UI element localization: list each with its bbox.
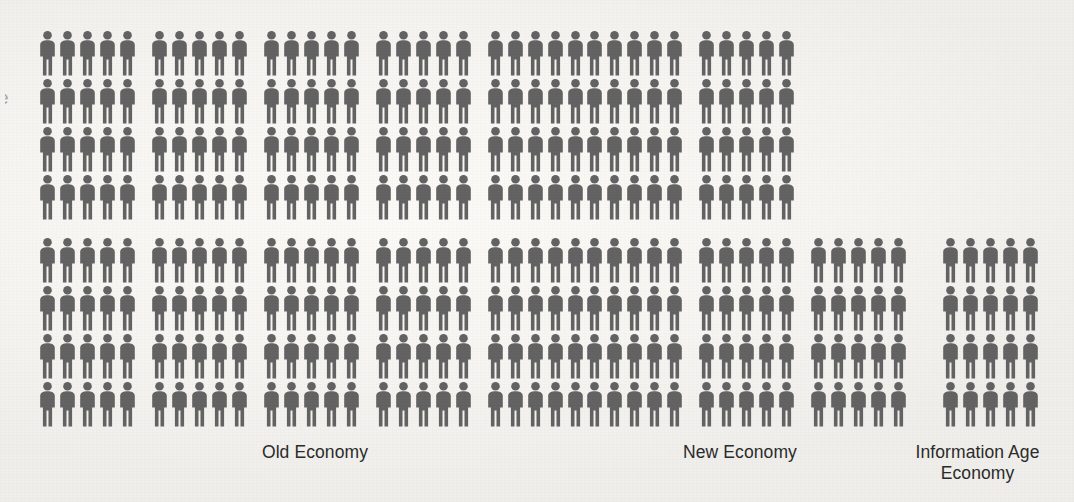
pictogram-block bbox=[262, 237, 362, 283]
person-icon bbox=[961, 381, 980, 427]
category-label-old-economy: Old Economy bbox=[155, 442, 475, 463]
person-icon bbox=[697, 174, 716, 220]
pictogram-block bbox=[38, 237, 138, 283]
person-icon bbox=[170, 237, 189, 283]
person-icon bbox=[526, 78, 545, 124]
person-icon bbox=[717, 333, 736, 379]
person-icon bbox=[1021, 381, 1040, 427]
pictogram-row bbox=[38, 381, 586, 427]
person-icon bbox=[78, 285, 97, 331]
person-icon bbox=[118, 30, 137, 76]
pictogram-block bbox=[585, 285, 685, 331]
person-icon bbox=[190, 381, 209, 427]
person-icon bbox=[414, 174, 433, 220]
person-icon bbox=[1021, 237, 1040, 283]
person-icon bbox=[118, 126, 137, 172]
pictogram-block bbox=[486, 126, 586, 172]
person-icon bbox=[170, 174, 189, 220]
person-icon bbox=[506, 381, 525, 427]
person-icon bbox=[1021, 285, 1040, 331]
person-icon bbox=[605, 285, 624, 331]
person-icon bbox=[454, 78, 473, 124]
person-icon bbox=[645, 126, 664, 172]
pictogram-row bbox=[38, 78, 586, 124]
person-icon bbox=[150, 285, 169, 331]
person-icon bbox=[757, 381, 776, 427]
pictogram-block bbox=[262, 174, 362, 220]
person-icon bbox=[941, 381, 960, 427]
person-icon bbox=[374, 126, 393, 172]
person-icon bbox=[849, 381, 868, 427]
person-icon bbox=[282, 126, 301, 172]
person-icon bbox=[342, 126, 361, 172]
person-icon bbox=[414, 78, 433, 124]
person-icon bbox=[506, 285, 525, 331]
pictogram-row bbox=[38, 237, 586, 283]
category-label-information-age-economy: Information Age Economy bbox=[885, 442, 1070, 484]
person-icon bbox=[374, 174, 393, 220]
person-icon bbox=[262, 30, 281, 76]
person-icon bbox=[585, 237, 604, 283]
pictogram-block bbox=[374, 381, 474, 427]
person-icon bbox=[889, 285, 908, 331]
person-icon bbox=[506, 174, 525, 220]
person-icon bbox=[342, 285, 361, 331]
pictogram-block bbox=[941, 333, 1041, 379]
person-icon bbox=[605, 333, 624, 379]
person-icon bbox=[566, 174, 585, 220]
pictogram-block bbox=[374, 30, 474, 76]
person-icon bbox=[394, 78, 413, 124]
person-icon bbox=[434, 285, 453, 331]
person-icon bbox=[757, 174, 776, 220]
person-icon bbox=[374, 381, 393, 427]
person-icon bbox=[717, 237, 736, 283]
person-icon bbox=[190, 333, 209, 379]
person-icon bbox=[374, 78, 393, 124]
person-icon bbox=[809, 333, 828, 379]
person-icon bbox=[394, 333, 413, 379]
person-icon bbox=[869, 237, 888, 283]
person-icon bbox=[98, 333, 117, 379]
person-icon bbox=[546, 30, 565, 76]
person-icon bbox=[645, 333, 664, 379]
person-icon bbox=[434, 30, 453, 76]
person-icon bbox=[434, 174, 453, 220]
person-icon bbox=[697, 333, 716, 379]
person-icon bbox=[374, 285, 393, 331]
person-icon bbox=[697, 237, 716, 283]
person-icon bbox=[777, 237, 796, 283]
person-icon bbox=[777, 126, 796, 172]
person-icon bbox=[38, 333, 57, 379]
person-icon bbox=[486, 381, 505, 427]
person-icon bbox=[434, 237, 453, 283]
person-icon bbox=[262, 285, 281, 331]
pictogram-row bbox=[585, 126, 797, 172]
person-icon bbox=[230, 237, 249, 283]
person-icon bbox=[486, 30, 505, 76]
person-icon bbox=[322, 30, 341, 76]
pictogram-block bbox=[150, 381, 250, 427]
person-icon bbox=[322, 237, 341, 283]
person-icon bbox=[414, 30, 433, 76]
person-icon bbox=[170, 126, 189, 172]
person-icon bbox=[585, 78, 604, 124]
pictogram-block bbox=[150, 285, 250, 331]
person-icon bbox=[322, 78, 341, 124]
person-icon bbox=[58, 78, 77, 124]
person-icon bbox=[322, 174, 341, 220]
person-icon bbox=[150, 381, 169, 427]
person-icon bbox=[262, 333, 281, 379]
pictogram-block bbox=[809, 381, 909, 427]
person-icon bbox=[302, 333, 321, 379]
person-icon bbox=[150, 174, 169, 220]
person-icon bbox=[414, 285, 433, 331]
person-icon bbox=[526, 30, 545, 76]
pictogram-row bbox=[941, 285, 1041, 331]
person-icon bbox=[486, 174, 505, 220]
person-icon bbox=[414, 381, 433, 427]
person-icon bbox=[625, 285, 644, 331]
person-icon bbox=[829, 381, 848, 427]
person-icon bbox=[150, 78, 169, 124]
pictogram-block bbox=[809, 285, 909, 331]
person-icon bbox=[454, 174, 473, 220]
